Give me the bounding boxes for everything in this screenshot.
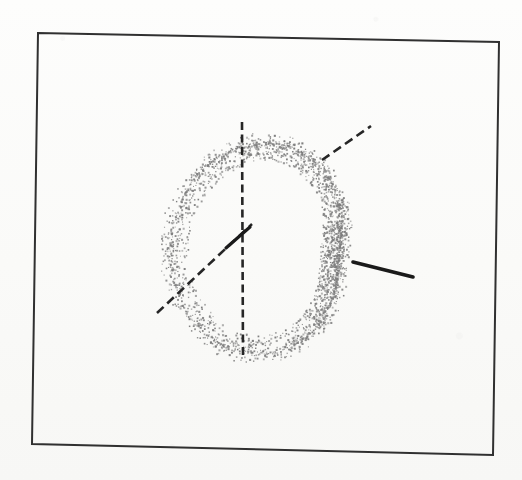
stipple-dot	[278, 150, 279, 151]
stipple-dot	[182, 277, 183, 278]
stipple-dot	[326, 313, 327, 314]
stipple-dot	[171, 239, 172, 240]
stipple-dot	[305, 149, 306, 150]
stipple-dot	[238, 152, 239, 153]
stipple-dot	[315, 321, 316, 322]
stipple-dot	[182, 196, 184, 198]
stipple-dot	[237, 343, 238, 344]
stipple-dot	[311, 335, 312, 336]
stipple-dot	[339, 221, 340, 222]
stipple-dot	[288, 334, 290, 336]
stipple-dot	[315, 324, 316, 325]
stipple-dot	[329, 233, 330, 234]
stipple-dot	[225, 168, 227, 170]
stipple-dot	[274, 151, 275, 152]
stipple-dot	[274, 356, 275, 357]
stipple-dot	[306, 156, 307, 157]
stipple-dot	[338, 234, 339, 235]
stipple-dot	[323, 263, 324, 264]
stipple-dot	[309, 309, 311, 311]
stipple-dot	[338, 265, 339, 266]
stipple-dot	[248, 344, 250, 346]
stipple-dot	[260, 158, 262, 160]
stipple-dot	[204, 159, 205, 160]
stipple-dot	[222, 153, 224, 155]
stipple-dot	[341, 265, 342, 266]
stipple-dot	[169, 263, 170, 264]
stipple-dot	[176, 255, 178, 257]
stipple-dot	[322, 287, 324, 289]
stipple-dot	[225, 347, 226, 348]
stipple-dot	[315, 173, 316, 174]
stipple-dot	[296, 341, 297, 342]
stipple-dot	[212, 329, 214, 331]
stipple-dot	[301, 142, 303, 144]
stipple-dot	[327, 273, 329, 275]
stipple-dot	[171, 269, 173, 271]
stipple-dot	[275, 332, 277, 334]
stipple-dot	[323, 225, 325, 227]
stipple-dot	[296, 327, 298, 329]
stipple-dot	[346, 211, 347, 212]
stipple-dot	[198, 199, 200, 201]
stipple-dot	[289, 341, 291, 343]
stipple-dot	[258, 143, 260, 145]
stipple-dot	[345, 229, 346, 230]
stipple-dot	[172, 304, 174, 306]
stipple-dot	[231, 341, 233, 343]
stipple-dot	[237, 147, 238, 148]
stipple-dot	[322, 308, 324, 310]
stipple-dot	[342, 243, 344, 245]
stipple-dot	[250, 154, 252, 156]
stipple-dot	[164, 259, 166, 261]
stipple-dot	[203, 184, 205, 186]
stipple-dot	[330, 207, 331, 208]
stipple-dot	[339, 246, 341, 248]
stipple-dot	[334, 176, 335, 177]
stipple-dot	[208, 183, 209, 184]
stipple-dot	[329, 305, 330, 306]
stipple-dot	[340, 265, 342, 267]
stipple-dot	[213, 316, 214, 317]
stipple-dot	[333, 262, 334, 263]
stipple-dot	[221, 164, 222, 165]
stipple-dot	[326, 257, 327, 258]
stipple-dot	[326, 251, 327, 252]
stipple-dot	[290, 356, 291, 357]
stipple-dot	[302, 172, 303, 173]
stipple-dot	[318, 184, 320, 186]
stipple-dot	[249, 150, 251, 152]
stipple-dot	[221, 166, 223, 168]
stipple-dot	[184, 256, 185, 257]
stipple-dot	[339, 194, 341, 196]
stipple-dot	[313, 169, 314, 170]
stipple-dot	[305, 153, 306, 154]
stipple-dot	[215, 336, 216, 337]
stipple-dot	[228, 143, 230, 145]
stipple-dot	[190, 315, 192, 317]
stipple-dot	[330, 183, 331, 184]
stipple-dot	[332, 201, 334, 203]
stipple-dot	[331, 188, 332, 189]
stipple-dot	[184, 304, 185, 305]
stipple-dot	[177, 289, 178, 290]
stipple-dot	[330, 176, 332, 178]
stipple-dot	[332, 238, 333, 239]
stipple-dot	[170, 264, 172, 266]
stipple-dot	[298, 152, 299, 153]
stipple-dot	[189, 230, 191, 232]
stipple-dot	[298, 167, 300, 169]
stipple-dot	[314, 150, 316, 152]
stipple-dot	[174, 304, 176, 306]
stipple-dot	[324, 305, 325, 306]
stipple-dot	[286, 356, 287, 357]
stipple-dot	[213, 324, 215, 326]
stipple-dot	[177, 212, 179, 214]
stipple-dot	[304, 332, 305, 333]
stipple-dot	[180, 201, 182, 203]
stipple-dot	[301, 340, 303, 342]
stipple-dot	[170, 271, 171, 272]
stipple-dot	[182, 197, 183, 198]
stipple-dot	[161, 271, 162, 272]
stipple-dot	[327, 208, 328, 209]
